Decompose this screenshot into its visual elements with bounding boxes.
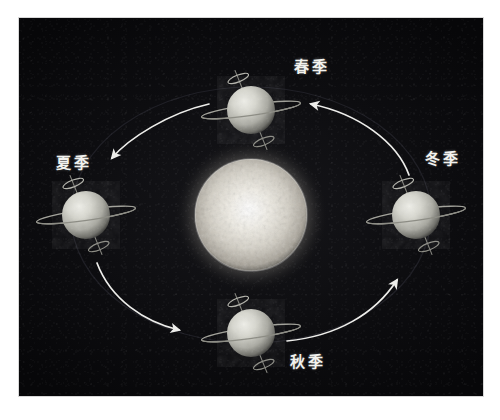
arrow-winter-to-spring [311,104,409,175]
season-label-summer: 夏季 [56,156,92,171]
photo-plate [19,18,483,396]
diagram-canvas [19,18,483,396]
sun [173,137,329,293]
seasons-diagram-figure: 春季 夏季 秋季 冬季 [0,0,500,420]
season-label-spring: 春季 [294,60,330,75]
arrow-summer-to-autumn [97,263,179,330]
arrow-spring-to-summer [112,104,209,158]
arrow-autumn-to-winter [287,280,397,341]
season-label-winter: 冬季 [425,152,461,167]
earth-summer [36,171,137,259]
season-label-autumn: 秋季 [290,355,326,370]
earth-winter [366,171,467,259]
earth-autumn [201,289,302,377]
